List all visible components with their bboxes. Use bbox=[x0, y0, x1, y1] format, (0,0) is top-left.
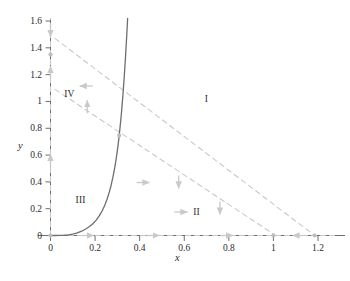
dashed-nullcline-upper bbox=[55, 38, 315, 235]
phase-plane-plot bbox=[0, 0, 350, 281]
y-axis-tick-label: 1.4 bbox=[0, 43, 42, 53]
dashed-nullclines bbox=[55, 38, 315, 235]
y-axis-tick-label: 0.8 bbox=[0, 123, 42, 133]
y-axis-tick-label: 0 bbox=[0, 231, 42, 241]
axis-lines bbox=[38, 19, 345, 241]
direction-field-arrows bbox=[51, 24, 306, 236]
region-label-i: I bbox=[205, 94, 208, 104]
equilibrium-points bbox=[48, 52, 316, 237]
y-axis-tick-label: 1.6 bbox=[0, 16, 42, 26]
equilibrium-point bbox=[48, 52, 52, 56]
x-axis-tick-label: 1.2 bbox=[312, 243, 324, 253]
equilibrium-point bbox=[313, 233, 317, 237]
x-axis-title: x bbox=[175, 252, 180, 263]
x-axis-tick-label: 1 bbox=[271, 243, 276, 253]
equilibrium-point bbox=[271, 233, 275, 237]
dashed-nullcline-lower bbox=[55, 89, 276, 235]
solid-nullcline-curve bbox=[51, 18, 128, 235]
phase-plane-figure: 00.20.40.60.811.21.41.6 00.20.40.60.811.… bbox=[0, 0, 350, 281]
y-axis-tick-label: 0.2 bbox=[0, 204, 42, 214]
y-axis-tick-label: 1.2 bbox=[0, 70, 42, 80]
x-axis-tick-label: 0.6 bbox=[178, 243, 190, 253]
solid-nullcline bbox=[51, 18, 128, 235]
y-axis-title: y bbox=[18, 140, 23, 151]
y-axis-tick-label: 0.4 bbox=[0, 177, 42, 187]
x-axis-tick-label: 0.4 bbox=[134, 243, 146, 253]
region-label-ii: II bbox=[193, 207, 200, 217]
region-label-iv: IV bbox=[64, 89, 74, 99]
axis-trajectories bbox=[51, 18, 337, 235]
x-axis-ticks bbox=[51, 236, 319, 242]
y-axis-tick-label: 1 bbox=[0, 96, 42, 106]
x-axis-tick-label: 0.8 bbox=[223, 243, 235, 253]
x-axis-tick-label: 0 bbox=[48, 243, 53, 253]
y-axis-tick-label: 0.6 bbox=[0, 150, 42, 160]
equilibrium-point bbox=[117, 134, 121, 138]
equilibrium-point bbox=[48, 233, 52, 237]
region-label-iii: III bbox=[76, 195, 86, 205]
x-axis-tick-label: 0.2 bbox=[89, 243, 101, 253]
